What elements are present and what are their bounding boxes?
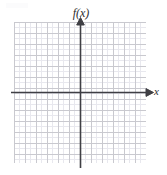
coordinate-plane-figure: f(x) x (0, 0, 167, 175)
x-axis (11, 89, 154, 97)
y-axis-label: f(x) (66, 7, 96, 19)
axes-layer (0, 0, 167, 175)
x-axis-arrowhead (146, 89, 154, 97)
x-axis-label: x (154, 86, 159, 97)
